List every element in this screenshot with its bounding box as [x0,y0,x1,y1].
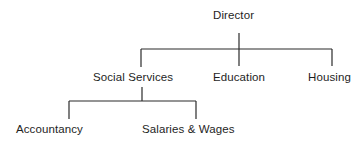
node-education: Education [213,71,265,84]
org-chart: Director Social Services Education Housi… [0,0,364,148]
node-accountancy: Accountancy [16,123,83,136]
node-salaries-wages: Salaries & Wages [142,123,235,136]
node-director: Director [213,9,254,22]
node-housing: Housing [308,71,351,84]
node-social-services: Social Services [93,71,173,84]
